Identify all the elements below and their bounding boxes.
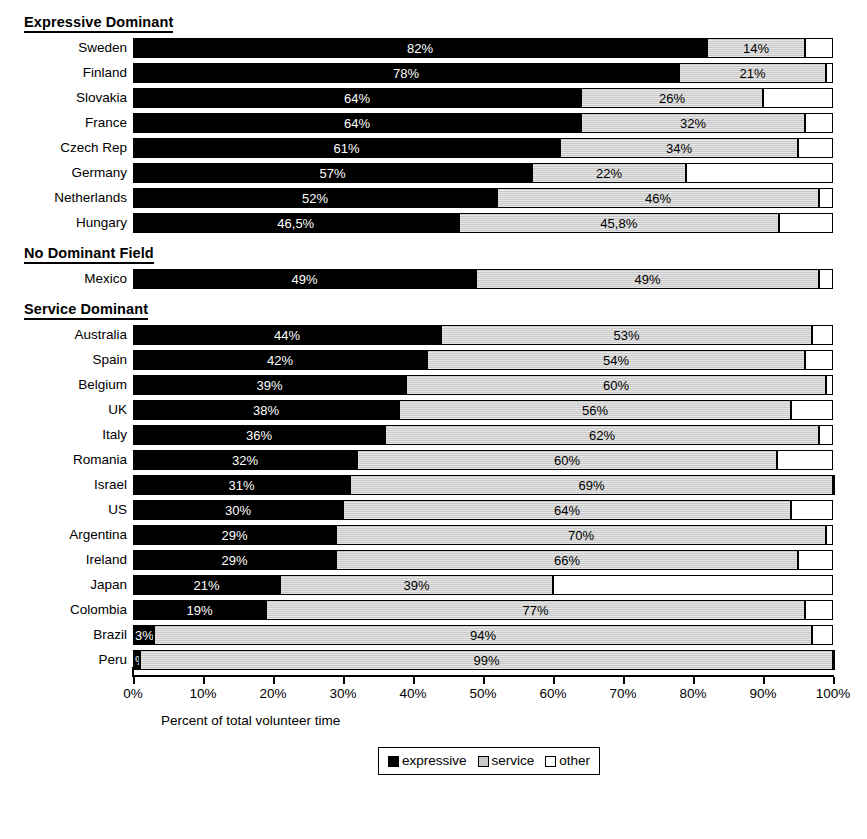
chart-row: Czech Rep61%34% [0, 137, 867, 159]
bar-segment-other [798, 550, 833, 570]
x-axis-tick [343, 677, 345, 684]
bar-segment-service: 60% [357, 450, 777, 470]
chart-row: Peru%99% [0, 649, 867, 671]
segment-value-label: 82% [407, 42, 433, 55]
segment-value-label: 66% [554, 554, 580, 567]
legend-label: other [559, 754, 590, 768]
bar-segment-other [805, 350, 833, 370]
row-label-argentina: Argentina [0, 524, 127, 546]
segment-value-label: 78% [393, 67, 419, 80]
segment-value-label: 64% [344, 117, 370, 130]
row-label-italy: Italy [0, 424, 127, 446]
stacked-bar: 64%26% [133, 88, 833, 108]
legend-item-expressive[interactable]: expressive [388, 754, 467, 768]
x-axis-tick-label: 100% [803, 686, 863, 701]
stacked-bar: 36%62% [133, 425, 833, 445]
segment-value-label: 26% [659, 92, 685, 105]
x-axis-tick-label: 10% [173, 686, 233, 701]
stacked-bar: 46,5%45,8% [133, 213, 833, 233]
chart-row: Ireland29%66% [0, 549, 867, 571]
bar-segment-expressive: 61% [133, 138, 560, 158]
row-label-colombia: Colombia [0, 599, 127, 621]
segment-value-label: 21% [739, 67, 765, 80]
bar-segment-expressive: 21% [133, 575, 280, 595]
bar-segment-expressive: 36% [133, 425, 385, 445]
bar-segment-other [833, 650, 835, 670]
chart-legend: expressiveserviceother [378, 747, 600, 775]
segment-value-label: 29% [221, 529, 247, 542]
legend-label: service [492, 754, 535, 768]
segment-value-label: 60% [603, 379, 629, 392]
segment-value-label: 99% [473, 654, 499, 667]
legend-swatch-other-icon [545, 756, 556, 767]
bar-segment-expressive: 32% [133, 450, 357, 470]
chart-row: Israel31%69% [0, 474, 867, 496]
segment-value-label: 61% [333, 142, 359, 155]
bar-segment-service: 77% [266, 600, 805, 620]
bar-segment-service: 21% [679, 63, 826, 83]
chart-row: Netherlands52%46% [0, 187, 867, 209]
bar-segment-expressive: 31% [133, 475, 350, 495]
legend-item-other[interactable]: other [545, 754, 590, 768]
segment-value-label: 94% [470, 629, 496, 642]
stacked-bar: 44%53% [133, 325, 833, 345]
segment-value-label: 62% [589, 429, 615, 442]
x-axis-tick [763, 677, 765, 684]
row-label-hungary: Hungary [0, 212, 127, 234]
bar-segment-service: 69% [350, 475, 833, 495]
legend-item-service[interactable]: service [478, 754, 535, 768]
segment-value-label: 44% [274, 329, 300, 342]
bar-segment-other [812, 325, 833, 345]
segment-value-label: 21% [193, 579, 219, 592]
stacked-bar: 52%46% [133, 188, 833, 208]
segment-value-label: 19% [186, 604, 212, 617]
x-axis-tick [693, 677, 695, 684]
stacked-bar: 3%94% [133, 625, 833, 645]
x-axis-tick-label: 40% [383, 686, 443, 701]
x-axis-tick-label: 70% [593, 686, 653, 701]
chart-row: Hungary46,5%45,8% [0, 212, 867, 234]
bar-segment-other [791, 500, 833, 520]
chart-row: Argentina29%70% [0, 524, 867, 546]
segment-value-label: 49% [291, 273, 317, 286]
bar-segment-service: 99% [140, 650, 833, 670]
row-label-mexico: Mexico [0, 268, 127, 290]
segment-value-label: 42% [267, 354, 293, 367]
stacked-bar: 29%70% [133, 525, 833, 545]
x-axis-tick [483, 677, 485, 684]
bar-segment-expressive: 19% [133, 600, 266, 620]
bar-segment-expressive: 49% [133, 269, 476, 289]
bar-segment-other [826, 525, 833, 545]
stacked-bar: 19%77% [133, 600, 833, 620]
bar-segment-other [805, 113, 833, 133]
segment-value-label: 38% [253, 404, 279, 417]
row-label-japan: Japan [0, 574, 127, 596]
segment-value-label: 64% [554, 504, 580, 517]
row-label-slovakia: Slovakia [0, 87, 127, 109]
bar-segment-expressive: 64% [133, 113, 581, 133]
bar-segment-expressive: 29% [133, 550, 336, 570]
segment-value-label: 69% [578, 479, 604, 492]
bar-segment-service: 45,8% [459, 213, 780, 233]
bar-segment-service: 32% [581, 113, 805, 133]
bar-segment-expressive: 39% [133, 375, 406, 395]
chart-row: Finland78%21% [0, 62, 867, 84]
row-label-sweden: Sweden [0, 37, 127, 59]
bar-segment-expressive: 57% [133, 163, 532, 183]
stacked-bar: %99% [133, 650, 833, 670]
bar-segment-expressive: 29% [133, 525, 336, 545]
chart-row: Colombia19%77% [0, 599, 867, 621]
segment-value-label: 56% [582, 404, 608, 417]
bar-segment-service: 39% [280, 575, 553, 595]
bar-segment-expressive: 46,5% [133, 213, 459, 233]
chart-row: Brazil3%94% [0, 624, 867, 646]
legend-swatch-service-icon [478, 756, 489, 767]
bar-segment-expressive: 38% [133, 400, 399, 420]
x-axis-tick [133, 677, 135, 684]
x-axis-tick-label: 90% [733, 686, 793, 701]
bar-segment-service: 94% [154, 625, 812, 645]
bar-segment-service: 34% [560, 138, 798, 158]
bar-segment-other [826, 63, 833, 83]
stacked-bar: 82%14% [133, 38, 833, 58]
chart-row: Belgium39%60% [0, 374, 867, 396]
